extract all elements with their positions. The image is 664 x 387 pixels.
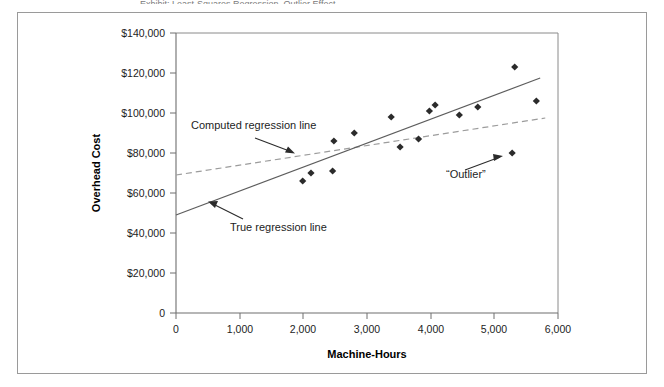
y-axis-ticks [170,33,176,313]
annotation-true-regression: True regression line [208,201,327,233]
data-point-marker [511,63,518,70]
x-axis-title: Machine-Hours [327,348,406,360]
data-point-marker [533,97,540,104]
plot-area-frame [176,33,558,313]
chart-canvas: $140,000 $120,000 $100,000 $80,000 $60,0… [0,0,664,387]
y-tick-label: $40,000 [127,227,165,239]
data-point-marker [426,107,433,114]
data-point-marker [388,113,395,120]
regression-lines [176,78,545,215]
x-tick-label: 2,000 [290,323,316,335]
x-tick-label: 3,000 [354,323,380,335]
y-tick-label: $80,000 [127,147,165,159]
y-axis-title: Overhead Cost [90,134,102,213]
data-point-marker [509,149,516,156]
data-point-marker [307,169,314,176]
x-tick-label: 5,000 [481,323,507,335]
x-axis-ticks [176,313,558,319]
y-tick-label: $60,000 [127,187,165,199]
data-point-marker [330,137,337,144]
x-axis-tick-labels: 0 1,000 2,000 3,000 4,000 5,000 6,000 [173,323,571,335]
x-tick-label: 1,000 [227,323,253,335]
data-point-marker [329,167,336,174]
true-regression-line [176,78,540,215]
data-point-marker [351,129,358,136]
y-tick-label: $100,000 [121,107,165,119]
regression-scatter-figure: Exhibit: Least-Squares Regression, Outli… [0,0,664,387]
x-tick-label: 4,000 [418,323,444,335]
data-point-marker [432,101,439,108]
annotation-outlier: “Outlier” [446,154,503,180]
data-point-marker [456,111,463,118]
data-point-marker [397,143,404,150]
y-tick-label: $120,000 [121,67,165,79]
annotation-label-true: True regression line [230,221,327,233]
data-point-marker [299,177,306,184]
data-point-marker [415,135,422,142]
y-axis-tick-labels: $140,000 $120,000 $100,000 $80,000 $60,0… [121,27,165,319]
y-tick-label: $140,000 [121,27,165,39]
annotation-computed-regression: Computed regression line [191,119,316,154]
data-point-marker [474,103,481,110]
x-tick-label: 0 [173,323,179,335]
y-tick-label: $20,000 [127,267,165,279]
x-tick-label: 6,000 [545,323,571,335]
y-tick-label: 0 [159,307,165,319]
annotation-label-computed: Computed regression line [191,119,316,131]
